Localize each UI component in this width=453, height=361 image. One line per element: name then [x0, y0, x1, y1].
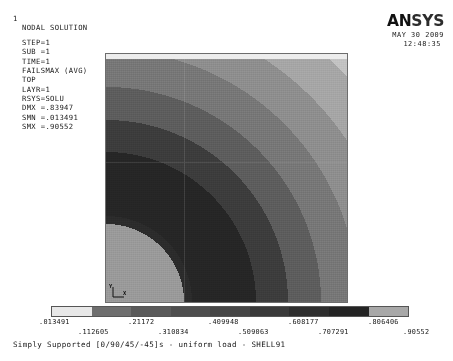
- ansys-logo-block: ANSYS MAY 30 2009 12:48:35: [387, 13, 444, 49]
- ansys-plot-window: 1 NODAL SOLUTION STEP=1 SUB =1 TIME=1 FA…: [0, 0, 453, 361]
- contour-bands: [106, 54, 347, 302]
- plot-number: 1: [13, 14, 18, 23]
- info-line-layer: LAYR=1: [22, 85, 87, 94]
- axis-triad-icon: Y X: [109, 283, 135, 299]
- info-line-dmx: DMX =.83947: [22, 103, 87, 112]
- info-line-step: STEP=1: [22, 38, 87, 47]
- legend-tick-3: .21172: [128, 318, 154, 326]
- legend-swatch-3: [131, 307, 171, 316]
- info-line-quantity: FAILSMAX (AVG): [22, 66, 87, 75]
- legend-swatch-2: [92, 307, 132, 316]
- plot-date: MAY 30 2009: [387, 31, 444, 40]
- top-edge-band: [106, 54, 347, 59]
- legend-swatch-1: [52, 307, 92, 316]
- legend-tick-6: .509063: [238, 328, 269, 336]
- legend-tick-9: .806406: [368, 318, 399, 326]
- legend-tick-2: .112605: [78, 328, 109, 336]
- legend-swatch-9: [369, 307, 409, 316]
- legend-swatch-7: [289, 307, 329, 316]
- ansys-logo-bold: AN: [387, 12, 411, 30]
- ansys-logo-light: SYS: [411, 12, 444, 30]
- legend-swatch-5: [210, 307, 250, 316]
- axis-label-x: X: [123, 290, 126, 296]
- legend-tick-labels: .013491 .112605 .21172 .310834 .409948 .…: [0, 318, 453, 342]
- contour-legend-bar: [51, 306, 409, 317]
- axis-triad-glyph: [109, 283, 135, 299]
- plot-time: 12:48:35: [387, 40, 441, 49]
- legend-tick-4: .310834: [158, 328, 189, 336]
- plot-caption: Simply Supported [0/90/45/-45]s - unifor…: [13, 340, 285, 349]
- info-line-surface: TOP: [22, 75, 87, 84]
- legend-tick-8: .707291: [318, 328, 349, 336]
- info-line-smx: SMX =.90552: [22, 122, 87, 131]
- solution-title: NODAL SOLUTION: [22, 23, 87, 32]
- axis-label-y: Y: [109, 283, 112, 289]
- legend-tick-7: .608177: [288, 318, 319, 326]
- info-line-smn: SMN =.013491: [22, 113, 87, 122]
- legend-tick-1: .013491: [39, 318, 70, 326]
- info-line-time: TIME=1: [22, 57, 87, 66]
- legend-swatch-4: [171, 307, 211, 316]
- legend-swatch-6: [250, 307, 290, 316]
- ansys-logo: ANSYS: [387, 13, 444, 29]
- solution-info-block: STEP=1 SUB =1 TIME=1 FAILSMAX (AVG) TOP …: [22, 38, 87, 131]
- legend-tick-10: .90552: [403, 328, 429, 336]
- info-line-sub: SUB =1: [22, 47, 87, 56]
- info-line-rsys: RSYS=SOLU: [22, 94, 87, 103]
- legend-swatch-8: [329, 307, 369, 316]
- contour-plot-area: MN Y X: [105, 53, 348, 303]
- legend-tick-5: .409948: [208, 318, 239, 326]
